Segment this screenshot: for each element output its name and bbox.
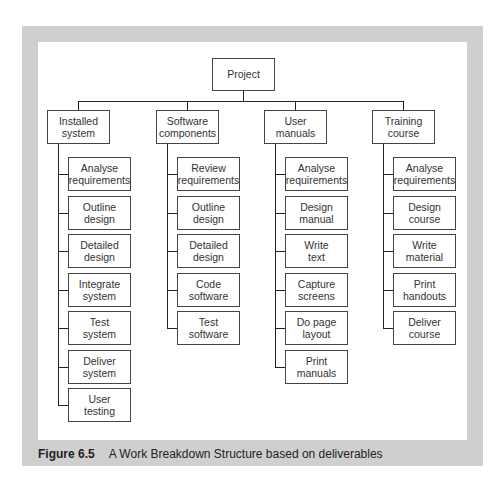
child-connector	[275, 174, 285, 175]
child-connector	[58, 213, 68, 214]
child-connector	[167, 213, 177, 214]
branch-spine-line	[167, 144, 168, 328]
task-node: Analyse requirements	[285, 157, 348, 191]
task-node: Review requirements	[177, 157, 240, 191]
child-connector	[167, 251, 177, 252]
branch-drop-line	[295, 101, 296, 110]
task-node: Test system	[68, 311, 131, 345]
task-node: Analyse requirements	[68, 157, 131, 191]
child-connector	[58, 405, 68, 406]
branch-node: Installed system	[47, 110, 110, 144]
task-node: Print manuals	[285, 350, 348, 384]
root-connector	[243, 91, 244, 101]
task-node: Test software	[177, 311, 240, 345]
child-connector	[58, 174, 68, 175]
child-connector	[58, 290, 68, 291]
child-connector	[58, 251, 68, 252]
child-connector	[383, 251, 393, 252]
child-connector	[275, 328, 285, 329]
task-node: Detailed design	[68, 234, 131, 268]
branch-spine-line	[275, 144, 276, 367]
root-node-project: Project	[212, 58, 275, 91]
child-connector	[275, 290, 285, 291]
branch-drop-line	[187, 101, 188, 110]
branch-node: User manuals	[264, 110, 327, 144]
task-node: Outline design	[177, 196, 240, 230]
child-connector	[275, 367, 285, 368]
branch-drop-line	[403, 101, 404, 110]
figure-caption-text: A Work Breakdown Structure based on deli…	[109, 447, 383, 461]
task-node: Deliver course	[393, 311, 456, 345]
task-node: Integrate system	[68, 273, 131, 307]
child-connector	[167, 174, 177, 175]
child-connector	[167, 328, 177, 329]
task-node: Code software	[177, 273, 240, 307]
task-node: Do page layout	[285, 311, 348, 345]
task-node: User testing	[68, 388, 131, 422]
task-node: Design manual	[285, 196, 348, 230]
horizontal-bus-line	[78, 101, 404, 102]
child-connector	[58, 367, 68, 368]
task-node: Deliver system	[68, 350, 131, 384]
task-node: Outline design	[68, 196, 131, 230]
task-node: Design course	[393, 196, 456, 230]
branch-spine-line	[58, 144, 59, 405]
task-node: Write material	[393, 234, 456, 268]
child-connector	[383, 328, 393, 329]
task-node: Print handouts	[393, 273, 456, 307]
child-connector	[275, 251, 285, 252]
child-connector	[58, 328, 68, 329]
branch-drop-line	[78, 101, 79, 110]
child-connector	[275, 213, 285, 214]
figure-number: Figure 6.5	[38, 447, 95, 461]
child-connector	[167, 290, 177, 291]
branch-spine-line	[383, 144, 384, 328]
child-connector	[383, 174, 393, 175]
task-node: Detailed design	[177, 234, 240, 268]
figure-caption: Figure 6.5A Work Breakdown Structure bas…	[38, 447, 383, 461]
child-connector	[383, 213, 393, 214]
branch-node: Software components	[156, 110, 219, 144]
task-node: Capture screens	[285, 273, 348, 307]
child-connector	[383, 290, 393, 291]
task-node: Analyse requirements	[393, 157, 456, 191]
branch-node: Training course	[372, 110, 435, 144]
task-node: Write text	[285, 234, 348, 268]
